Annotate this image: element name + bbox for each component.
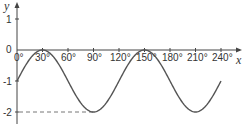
y-axis-label: y <box>3 0 10 13</box>
x-tick-label: 210° <box>187 52 208 63</box>
x-tick-label: 90° <box>87 52 102 63</box>
x-tick-label: 60° <box>61 52 76 63</box>
x-tick-label: 120° <box>110 52 131 63</box>
y-tick-label: 1 <box>6 14 12 25</box>
x-tick-label: 150° <box>136 52 157 63</box>
y-axis-arrow-icon <box>15 2 20 8</box>
x-tick-label: 30° <box>35 52 50 63</box>
y-tick-label: -2 <box>3 107 12 118</box>
x-axis-label: x <box>235 53 242 67</box>
x-tick-label: 240° <box>212 52 233 63</box>
y-tick-label: 0 <box>6 44 12 55</box>
x-tick-label: 0° <box>14 52 24 63</box>
x-tick-label: 180° <box>162 52 183 63</box>
y-tick-label: -1 <box>3 76 12 87</box>
x-axis-arrow-icon <box>236 48 242 53</box>
sine-chart: y x 1 0 -1 -2 0° 30° 60° 90° 120° 150° 1… <box>0 0 246 128</box>
